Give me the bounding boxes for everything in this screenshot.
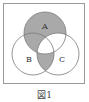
figure-caption: 図1 — [0, 88, 89, 101]
venn-diagram: A B C — [0, 0, 89, 102]
label-b: B — [26, 55, 32, 64]
label-c: C — [59, 55, 65, 64]
label-a: A — [41, 22, 48, 31]
